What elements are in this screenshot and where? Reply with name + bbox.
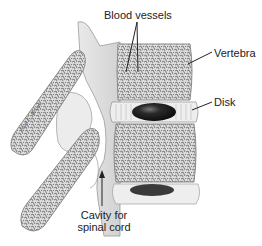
spine-diagram: Jean C. Brook Blood vessels Vertebra Dis… xyxy=(0,0,262,246)
label-blood-vessels: Blood vessels xyxy=(104,9,172,21)
disk-nucleus xyxy=(132,103,176,121)
upper-vertebra-body xyxy=(117,44,192,100)
label-cavity-for-spinal-cord: Cavity for spinal cord xyxy=(76,209,132,233)
label-vertebra: Vertebra xyxy=(214,47,256,59)
intervertebral-disk xyxy=(110,102,198,122)
label-cavity-line1: Cavity for xyxy=(76,209,132,221)
lower-vertebra-body xyxy=(114,124,196,182)
lower-disk-partial xyxy=(112,184,199,204)
label-disk: Disk xyxy=(214,96,235,108)
label-cavity-line2: spinal cord xyxy=(76,221,132,233)
